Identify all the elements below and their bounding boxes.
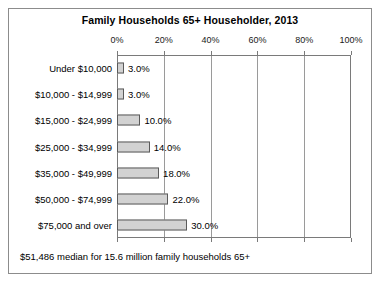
category-label: $50,000 - $74,999 (2, 193, 112, 204)
y-axis-category-labels: Under $10,000$10,000 - $14,999$15,000 - … (0, 0, 112, 285)
x-tick-mark-top (257, 51, 258, 55)
x-tick-label: 100% (339, 35, 362, 45)
bar-value-label: 10.0% (144, 115, 171, 126)
x-tick-mark-top (304, 51, 305, 55)
x-tick-label: 60% (248, 35, 266, 45)
category-label: $75,000 and over (2, 219, 112, 230)
x-tick-label: 80% (295, 35, 313, 45)
bar-value-label: 3.0% (128, 89, 150, 100)
category-label: Under $10,000 (2, 63, 112, 74)
x-tick-mark-bottom (117, 238, 118, 242)
bar-value-label: 3.0% (128, 63, 150, 74)
x-tick-mark-top (164, 51, 165, 55)
bar-value-label: 30.0% (191, 219, 218, 230)
bar (117, 115, 140, 126)
category-label: $15,000 - $24,999 (2, 115, 112, 126)
bar (117, 141, 150, 152)
category-label: $25,000 - $34,999 (2, 141, 112, 152)
x-tick-mark-bottom (351, 238, 352, 242)
plot-area (117, 55, 351, 238)
x-tick-label: 20% (155, 35, 173, 45)
chart-annotation: $51,486 median for 15.6 million family h… (20, 251, 250, 262)
gridline (304, 56, 305, 237)
bar (117, 63, 124, 74)
gridline (211, 56, 212, 237)
bar-value-label: 14.0% (154, 141, 181, 152)
x-tick-mark-bottom (211, 238, 212, 242)
chart-canvas: Family Households 65+ Householder, 2013 … (0, 0, 386, 285)
bar (117, 167, 159, 178)
bar (117, 193, 168, 204)
category-label: $35,000 - $49,999 (2, 167, 112, 178)
category-label: $10,000 - $14,999 (2, 89, 112, 100)
x-tick-mark-bottom (304, 238, 305, 242)
x-tick-mark-top (351, 51, 352, 55)
x-tick-label: 0% (110, 35, 123, 45)
bar-value-label: 18.0% (163, 167, 190, 178)
bar (117, 219, 187, 230)
bar (117, 89, 124, 100)
x-tick-label: 40% (202, 35, 220, 45)
x-tick-mark-bottom (257, 238, 258, 242)
gridline (257, 56, 258, 237)
x-tick-mark-top (117, 51, 118, 55)
x-tick-mark-bottom (164, 238, 165, 242)
x-tick-mark-top (211, 51, 212, 55)
bar-value-label: 22.0% (172, 193, 199, 204)
